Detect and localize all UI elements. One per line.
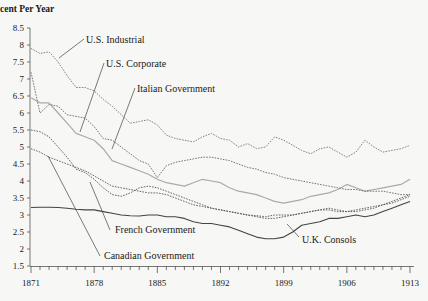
y-tick-label: 1.5 [13,261,25,271]
annotation-label: Canadian Government [104,250,194,261]
y-tick-label: 4 [20,176,25,186]
series-line-french-government [31,130,410,217]
x-tick-label: 1871 [22,278,40,288]
x-tick-label: 1878 [85,278,104,288]
annotation-label: U.S. Industrial [86,34,145,45]
series-line-italian-government [31,72,410,194]
y-tick-label: 2 [20,244,25,254]
series-line-u-s-industrial [31,48,410,157]
annotation-leader-line [48,156,100,256]
annotation-leader-line [59,39,84,58]
series-lines [31,48,410,238]
x-tick-label: 1913 [401,278,420,288]
annotation-label: French Government [115,224,195,235]
y-tick-label: 3.5 [13,193,25,203]
annotations: U.S. IndustrialU.S. CorporateItalian Gov… [48,34,356,261]
annotation-leader-line [112,88,135,149]
annotation-label: U.S. Corporate [106,58,167,69]
y-tick-label: 6.5 [13,91,25,101]
y-tick-label: 5 [20,142,25,152]
axes: 1.522.533.544.555.566.577.588.5187118781… [13,23,420,288]
y-axis-label: cent Per Year [0,4,55,14]
annotation-leader-line [80,63,104,132]
annotation-label: Italian Government [137,83,215,94]
series-line-u-s-corporate [31,98,410,203]
y-tick-label: 8 [20,40,25,50]
y-tick-label: 7.5 [13,57,25,67]
y-tick-label: 3 [20,210,25,220]
y-tick-label: 8.5 [13,23,25,33]
annotation-label: U.K. Consols [302,234,356,245]
y-tick-label: 7 [20,74,25,84]
y-tick-label: 2.5 [13,227,25,237]
x-tick-label: 1892 [212,278,230,288]
x-tick-label: 1885 [148,278,167,288]
y-tick-label: 4.5 [13,159,25,169]
annotation-leader-line [90,182,110,230]
y-tick-label: 6 [20,108,25,118]
x-tick-label: 1906 [338,278,357,288]
bond-yield-chart: cent Per Year 1.522.533.544.555.566.577.… [0,0,428,301]
y-tick-label: 5.5 [13,125,25,135]
x-tick-label: 1899 [275,278,294,288]
annotation-leader-line [287,224,299,237]
